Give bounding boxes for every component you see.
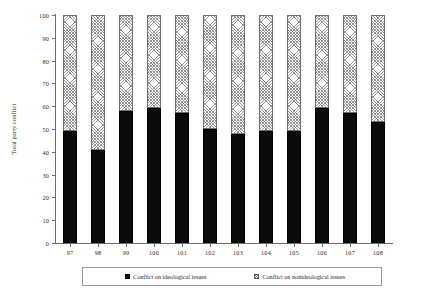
bar-segment-nonideological [343, 15, 358, 113]
x-axis-line [55, 243, 393, 244]
y-tick-label: 100 [39, 12, 49, 19]
bar-segment-ideological [175, 113, 190, 243]
y-axis-title: Total party conflict [11, 104, 17, 155]
bar-segment-nonideological [231, 15, 246, 134]
x-tick-label: 105 [289, 249, 299, 256]
stacked-bar [259, 15, 274, 243]
x-tick-label: 101 [177, 249, 187, 256]
y-tick-label: 30 [42, 171, 49, 178]
x-tick-label: 107 [345, 249, 355, 256]
y-tick-label: 60 [42, 103, 49, 110]
bar-slot [203, 15, 218, 243]
chart-container: Total party conflict 0102030405060708090… [0, 0, 421, 295]
x-tick-mark [70, 243, 71, 247]
bar-segment-ideological [91, 150, 106, 243]
x-tick-label: 103 [233, 249, 243, 256]
bar-slot [259, 15, 274, 243]
plot-area: 0102030405060708090100 [56, 15, 392, 243]
bar-slot [371, 15, 386, 243]
x-tick-mark [210, 243, 211, 247]
bar-slot [231, 15, 246, 243]
bar-slot [343, 15, 358, 243]
legend-item-ideological: Conflict on ideological issues [125, 273, 206, 280]
y-tick-label: 40 [42, 148, 49, 155]
stacked-bar [91, 15, 106, 243]
bar-segment-nonideological [315, 15, 330, 108]
bar-segment-nonideological [371, 15, 386, 122]
x-tick-label: 104 [261, 249, 271, 256]
bar-segment-ideological [231, 134, 246, 243]
stacked-bar [119, 15, 134, 243]
x-tick-mark [126, 243, 127, 247]
bar-segment-nonideological [175, 15, 190, 113]
chart-legend: Conflict on ideological issues Conflict … [82, 267, 382, 286]
stacked-bar [343, 15, 358, 243]
bar-slot [175, 15, 190, 243]
x-tick-mark [378, 243, 379, 247]
x-tick-mark [294, 243, 295, 247]
stacked-bar [371, 15, 386, 243]
y-tick-mark [52, 243, 56, 244]
bar-slot [287, 15, 302, 243]
bar-slot [147, 15, 162, 243]
bar-segment-ideological [203, 129, 218, 243]
bar-segment-ideological [119, 111, 134, 243]
bar-slot [91, 15, 106, 243]
bar-segment-ideological [315, 108, 330, 243]
bar-slot [119, 15, 134, 243]
stacked-bar [231, 15, 246, 243]
x-tick-mark [182, 243, 183, 247]
legend-swatch-hatch-icon [254, 274, 259, 279]
x-tick-label: 97 [67, 249, 74, 256]
x-tick-label: 108 [373, 249, 383, 256]
bar-segment-nonideological [287, 15, 302, 131]
bar-segment-ideological [259, 131, 274, 243]
bar-segment-nonideological [259, 15, 274, 131]
bar-segment-ideological [147, 108, 162, 243]
x-tick-mark [154, 243, 155, 247]
x-tick-mark [266, 243, 267, 247]
stacked-bar [287, 15, 302, 243]
legend-swatch-solid-icon [125, 274, 130, 279]
x-tick-mark [238, 243, 239, 247]
y-tick-label: 10 [42, 217, 49, 224]
x-tick-mark [350, 243, 351, 247]
bar-slot [315, 15, 330, 243]
y-tick-label: 0 [46, 240, 49, 247]
y-tick-label: 70 [42, 80, 49, 87]
bar-segment-ideological [343, 113, 358, 243]
stacked-bar [203, 15, 218, 243]
x-tick-mark [98, 243, 99, 247]
y-tick-label: 20 [42, 194, 49, 201]
legend-item-nonideological: Conflict on nonideological issues [254, 273, 345, 280]
y-tick-label: 90 [42, 34, 49, 41]
stacked-bar [147, 15, 162, 243]
bar-segment-ideological [63, 131, 78, 243]
legend-label-ideological: Conflict on ideological issues [133, 273, 206, 280]
x-tick-mark [322, 243, 323, 247]
x-tick-label: 100 [149, 249, 159, 256]
bar-segment-nonideological [91, 15, 106, 150]
bar-layer [56, 15, 392, 243]
stacked-bar [175, 15, 190, 243]
legend-label-nonideological: Conflict on nonideological issues [262, 273, 345, 280]
stacked-bar [63, 15, 78, 243]
bar-segment-nonideological [147, 15, 162, 108]
bar-segment-ideological [371, 122, 386, 243]
x-tick-label: 106 [317, 249, 327, 256]
x-tick-label: 102 [205, 249, 215, 256]
bar-segment-nonideological [63, 15, 78, 131]
x-tick-label: 98 [95, 249, 102, 256]
bar-segment-nonideological [119, 15, 134, 111]
stacked-bar [315, 15, 330, 243]
bar-segment-nonideological [203, 15, 218, 129]
y-tick-label: 80 [42, 57, 49, 64]
bar-segment-ideological [287, 131, 302, 243]
y-tick-label: 50 [42, 126, 49, 133]
bar-slot [63, 15, 78, 243]
x-tick-label: 99 [123, 249, 130, 256]
